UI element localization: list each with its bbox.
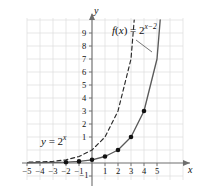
y-tick-label: 4 (79, 94, 89, 103)
data-point (103, 154, 108, 159)
data-point (142, 109, 147, 114)
y-tick-label: 8 (79, 42, 89, 51)
x-tick-label: −2 (60, 167, 72, 176)
fx-equals: = 2 (127, 24, 144, 36)
y-tick-label: 7 (79, 55, 89, 64)
y-axis-label: y (94, 5, 98, 16)
y-tick-label: 6 (79, 68, 89, 77)
y-tick-label: 5 (79, 81, 89, 90)
y2x-equals: = 2 (46, 135, 63, 147)
data-point (116, 148, 121, 153)
graph-canvas (0, 0, 200, 193)
x-tick-label: 4 (139, 167, 149, 176)
x-tick-label: 3 (126, 167, 136, 176)
function-label-fx: f(x) = 2x−2 (112, 25, 157, 36)
data-point (90, 158, 95, 163)
y-tick-label: 2 (79, 120, 89, 129)
data-point (129, 135, 134, 140)
fx-exponent: x−2 (145, 22, 157, 31)
x-tick-label: 5 (152, 167, 162, 176)
y-tick-label: 1 (79, 133, 89, 142)
function-label-y2x: y = 2x (41, 136, 66, 147)
x-axis-label: x (188, 164, 192, 175)
x-tick-label: 1 (100, 167, 110, 176)
x-tick-label: 2 (113, 167, 123, 176)
x-tick-label: −5 (21, 167, 33, 176)
exponential-function-graph-figure: 9 8 7 6 5 4 3 2 1 −1 −5 −4 −3 −2 −1 1 2 … (0, 0, 200, 193)
x-tick-label: −4 (34, 167, 46, 176)
data-point (77, 159, 82, 164)
y2x-exponent: x (63, 133, 66, 142)
x-tick-label: −1 (73, 167, 85, 176)
data-point (64, 160, 69, 165)
y-tick-label: 9 (79, 29, 89, 38)
y-tick-label: 3 (79, 107, 89, 116)
x-tick-label: −3 (47, 167, 59, 176)
axis-lines (22, 14, 190, 186)
